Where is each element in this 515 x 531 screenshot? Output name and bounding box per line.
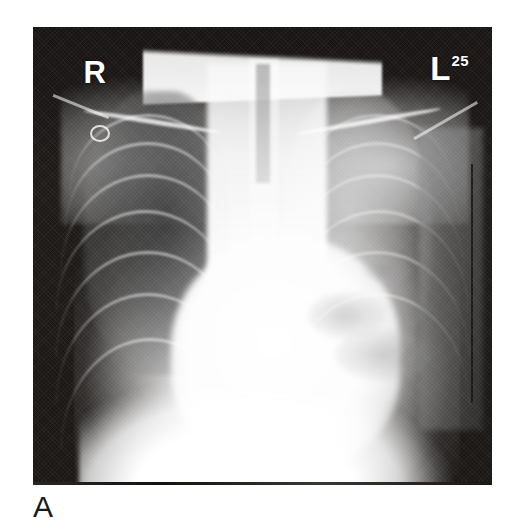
chest-radiograph-image[interactable]: R L 25 (33, 27, 492, 485)
panel-label: A (33, 492, 53, 522)
left-side-marker-superscript: 25 (451, 53, 469, 68)
right-side-marker: R (83, 57, 106, 88)
film-lateral-edge (471, 164, 473, 402)
left-side-marker-letter: L (430, 52, 450, 85)
figure-panel: R L 25 A (0, 0, 515, 531)
left-side-marker: L 25 (430, 52, 469, 85)
trachea-air-column (256, 64, 271, 183)
film-bottom-rule (33, 482, 492, 485)
